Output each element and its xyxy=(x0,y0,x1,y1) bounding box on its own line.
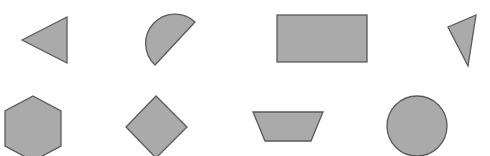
shapes-canvas xyxy=(0,0,490,156)
circle-shape xyxy=(387,96,447,156)
triangle-shape xyxy=(22,17,67,63)
semicircle-shape xyxy=(146,14,195,65)
narrow-triangle-shape xyxy=(448,15,476,66)
trapezoid-shape xyxy=(253,112,323,141)
diamond-shape xyxy=(126,96,187,156)
rectangle-shape xyxy=(277,15,367,62)
hexagon-shape xyxy=(5,96,61,156)
